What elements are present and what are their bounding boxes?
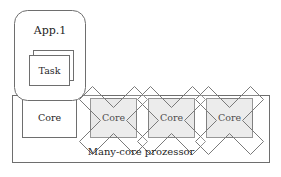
diagram-canvas: Core Core Core Core Many-core prozessor … [0,0,281,177]
processor-label: Many-core prozessor [88,146,195,157]
core-label-1: Core [38,112,62,123]
task-label: Task [39,65,61,76]
app-label: App.1 [33,24,67,37]
